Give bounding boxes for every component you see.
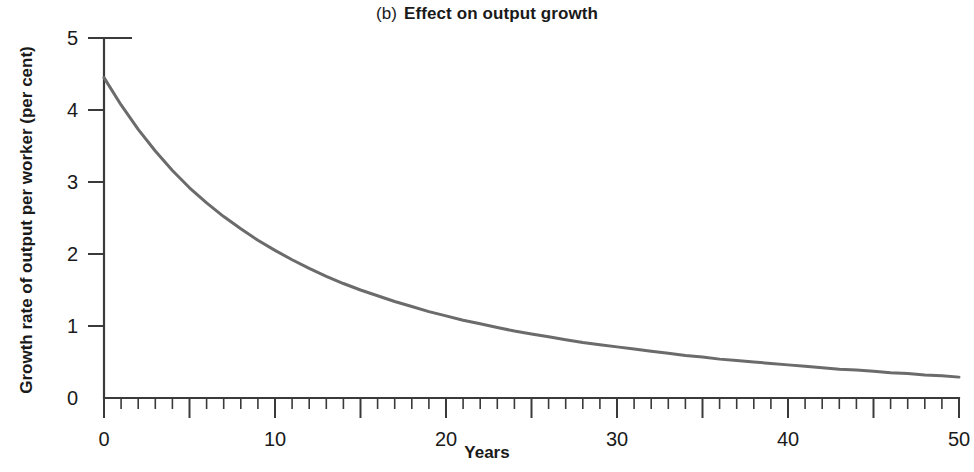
- y-tick-label-0: 0: [67, 387, 78, 409]
- y-tick-label-2: 2: [67, 243, 78, 265]
- axis-lines: [104, 38, 959, 398]
- data-series-group: [104, 78, 959, 378]
- x-tick-label-40: 40: [777, 428, 799, 450]
- x-tick-label-20: 20: [435, 428, 457, 450]
- x-tick-label-30: 30: [606, 428, 628, 450]
- chart-figure: (b)Effect on output growth Growth rate o…: [0, 0, 974, 472]
- plot-area: 012345 01020304050: [0, 0, 974, 472]
- x-tick-label-10: 10: [264, 428, 286, 450]
- x-tick-label-0: 0: [98, 428, 109, 450]
- y-tick-label-4: 4: [67, 99, 78, 121]
- y-tick-label-3: 3: [67, 171, 78, 193]
- y-axis-ticks: 012345: [67, 27, 132, 409]
- x-tick-label-50: 50: [948, 428, 970, 450]
- y-tick-label-5: 5: [67, 27, 78, 49]
- x-axis-ticks: 01020304050: [98, 398, 970, 450]
- data-curve-0: [104, 78, 959, 378]
- y-tick-label-1: 1: [67, 315, 78, 337]
